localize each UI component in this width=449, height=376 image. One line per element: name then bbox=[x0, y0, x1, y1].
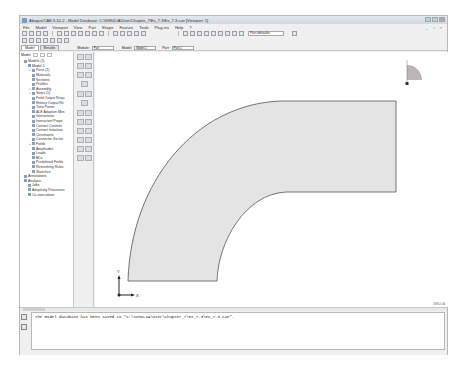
sketch-icon[interactable] bbox=[50, 38, 55, 43]
new-icon[interactable] bbox=[22, 31, 27, 36]
tree-collapse-icon[interactable] bbox=[40, 53, 45, 57]
view-back-icon[interactable] bbox=[190, 31, 195, 36]
partition-edge-icon[interactable] bbox=[85, 91, 92, 97]
secondary-toolbar bbox=[20, 37, 69, 44]
module-select[interactable]: Part bbox=[92, 46, 114, 50]
auto-fit-icon[interactable] bbox=[92, 31, 97, 36]
horizontal-scrollbar[interactable] bbox=[20, 307, 447, 311]
menu-part[interactable]: Part bbox=[88, 25, 95, 30]
render-style-select[interactable]: Part defaults bbox=[248, 31, 284, 36]
tree-node-icon bbox=[32, 120, 35, 123]
query-icon[interactable] bbox=[141, 31, 146, 36]
tree-filter-icon[interactable] bbox=[47, 53, 52, 57]
display-body-icon[interactable] bbox=[77, 155, 84, 161]
query-tool-icon[interactable] bbox=[85, 128, 92, 134]
view-front-icon[interactable] bbox=[183, 31, 188, 36]
open-icon[interactable] bbox=[29, 31, 34, 36]
menu-viewport[interactable]: Viewport bbox=[52, 25, 68, 30]
menu-model[interactable]: Model bbox=[35, 25, 46, 30]
create-part-icon[interactable] bbox=[77, 54, 84, 60]
tab-results[interactable]: Results bbox=[40, 45, 60, 50]
maximize-button[interactable] bbox=[432, 17, 438, 22]
minimize-button[interactable] bbox=[425, 17, 431, 22]
select-box-icon[interactable] bbox=[29, 38, 34, 43]
skin-icon[interactable] bbox=[85, 146, 92, 152]
print-icon[interactable] bbox=[43, 31, 48, 36]
menu-file[interactable]: File bbox=[23, 25, 29, 30]
model-tree: Model -Models (1)-Model-1+Parts (1)Mater… bbox=[20, 52, 74, 307]
title-bar: Abaqus/CAE 6.10-2 - Model Database: C:\S… bbox=[20, 16, 447, 24]
partition-icon[interactable] bbox=[57, 38, 62, 43]
magnify-icon[interactable] bbox=[71, 31, 76, 36]
wire-icon[interactable] bbox=[85, 72, 92, 78]
reference-point-icon[interactable] bbox=[85, 137, 92, 143]
virtual-topology-icon[interactable] bbox=[85, 110, 92, 116]
mirror-icon[interactable] bbox=[85, 155, 92, 161]
tree-node-icon bbox=[32, 133, 35, 136]
close-button[interactable] bbox=[439, 17, 445, 22]
replace-icon[interactable] bbox=[218, 31, 223, 36]
color-code-icon[interactable] bbox=[239, 31, 244, 36]
sketch-tool-icon[interactable] bbox=[77, 137, 84, 143]
extrude-solid-icon[interactable] bbox=[77, 63, 84, 69]
wireframe-icon[interactable] bbox=[113, 31, 118, 36]
zoom-icon[interactable] bbox=[78, 31, 83, 36]
hidden-icon[interactable] bbox=[127, 31, 132, 36]
repair-icon[interactable] bbox=[77, 110, 84, 116]
datum-icon[interactable] bbox=[43, 38, 48, 43]
select-icon[interactable] bbox=[22, 38, 27, 43]
tree-node-label: Constraints bbox=[36, 133, 54, 137]
filter-icon[interactable] bbox=[36, 38, 41, 43]
attachment-icon[interactable] bbox=[77, 146, 84, 152]
tree-node[interactable]: Co-executions bbox=[21, 192, 72, 197]
tree-expand-icon[interactable] bbox=[33, 53, 38, 57]
message-area-icon[interactable] bbox=[21, 314, 27, 320]
info-icon[interactable] bbox=[232, 31, 237, 36]
remove-icon[interactable] bbox=[225, 31, 230, 36]
tree-node-label: BCs bbox=[36, 156, 43, 160]
tab-model[interactable]: Model bbox=[21, 45, 39, 50]
tree-node-label: Analysis bbox=[28, 179, 41, 183]
tree-node-label: Contact Controls bbox=[36, 124, 62, 128]
partition-face-icon[interactable] bbox=[77, 91, 84, 97]
rotate-icon[interactable] bbox=[64, 31, 69, 36]
message-box: The model database has been saved to "C:… bbox=[31, 312, 445, 350]
menu-context-help[interactable]: ? bbox=[189, 25, 191, 30]
message-area: The model database has been saved to "C:… bbox=[20, 312, 447, 355]
set-icon[interactable] bbox=[77, 119, 84, 125]
model-select[interactable]: Model-1 bbox=[134, 46, 156, 50]
menu-feature[interactable]: Feature bbox=[119, 25, 133, 30]
cycle-views-icon[interactable] bbox=[99, 31, 104, 36]
extrude-cut-icon[interactable] bbox=[85, 63, 92, 69]
save-icon[interactable] bbox=[36, 31, 41, 36]
tree-label: Model bbox=[21, 53, 31, 57]
filled-icon[interactable] bbox=[134, 31, 139, 36]
surface-icon[interactable] bbox=[85, 119, 92, 125]
scrollbar-thumb[interactable] bbox=[23, 308, 45, 311]
mesh-icon[interactable] bbox=[64, 38, 69, 43]
perspective-icon[interactable] bbox=[204, 31, 209, 36]
box-zoom-icon[interactable] bbox=[85, 31, 90, 36]
viewport[interactable]: X Y bbox=[95, 52, 448, 307]
message-icons bbox=[21, 314, 30, 334]
menu-view[interactable]: View bbox=[74, 25, 83, 30]
menu-help[interactable]: Help bbox=[175, 25, 183, 30]
part-select[interactable]: Part-1 bbox=[172, 46, 194, 50]
tree-node-icon bbox=[28, 64, 31, 67]
display-group-icon[interactable] bbox=[211, 31, 216, 36]
datum-point-icon[interactable] bbox=[81, 100, 88, 106]
round-icon[interactable] bbox=[81, 81, 88, 87]
tree-node-icon bbox=[32, 165, 35, 168]
python-console-icon[interactable] bbox=[21, 324, 27, 330]
color-mapping-icon[interactable] bbox=[292, 31, 297, 36]
menu-plugins[interactable]: Plug-ins bbox=[155, 25, 169, 30]
shaded-icon[interactable] bbox=[120, 31, 125, 36]
part-manager-icon[interactable] bbox=[85, 54, 92, 60]
pan-icon[interactable] bbox=[57, 31, 62, 36]
menu-shape[interactable]: Shape bbox=[102, 25, 114, 30]
shell-icon[interactable] bbox=[77, 72, 84, 78]
menu-tools[interactable]: Tools bbox=[139, 25, 148, 30]
geometry-edit-icon[interactable] bbox=[77, 128, 84, 134]
view-compass-icon bbox=[406, 60, 423, 85]
view-iso-icon[interactable] bbox=[197, 31, 202, 36]
